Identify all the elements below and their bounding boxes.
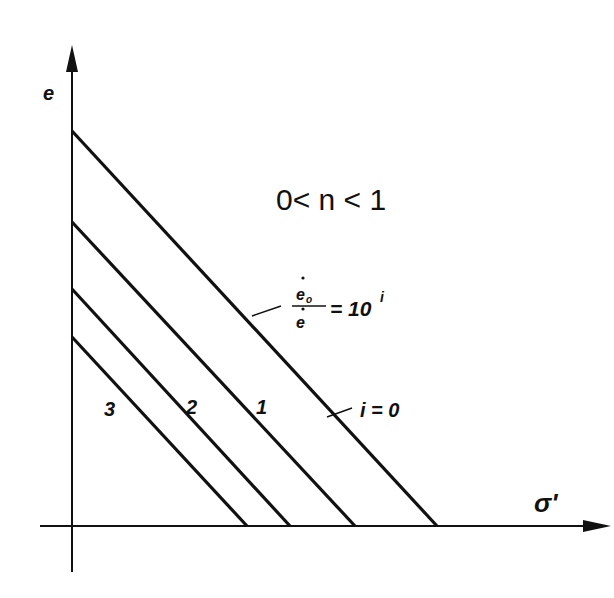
- line-i1: [72, 222, 355, 526]
- rate-numerator-sub: o: [306, 294, 312, 305]
- x-axis-label: σ': [534, 488, 558, 518]
- curve-label-1: 1: [256, 396, 267, 418]
- curve-label-i0: i = 0: [360, 399, 399, 421]
- dot-accent-icon: [301, 276, 304, 279]
- dot-accent-icon: [301, 307, 304, 310]
- curve-label-2: 2: [185, 396, 197, 418]
- condition-label: 0< n < 1: [276, 183, 386, 216]
- rate-relation: e o e = 10 i: [292, 276, 385, 331]
- y-axis-label: e: [43, 82, 54, 104]
- rate-exponent: i: [380, 289, 385, 305]
- curve-label-3: 3: [104, 398, 115, 420]
- rate-numerator: e: [296, 286, 305, 303]
- rate-rhs: = 10: [330, 297, 372, 320]
- x-axis-arrow-icon: [583, 520, 611, 532]
- leader-rate: [252, 306, 281, 316]
- diagram-canvas: e σ' 0< n < 1 e o e = 10 i i = 0 1 2 3: [0, 0, 614, 598]
- rate-denominator: e: [296, 314, 305, 331]
- line-i3: [72, 337, 247, 526]
- y-axis-arrow-icon: [66, 45, 78, 72]
